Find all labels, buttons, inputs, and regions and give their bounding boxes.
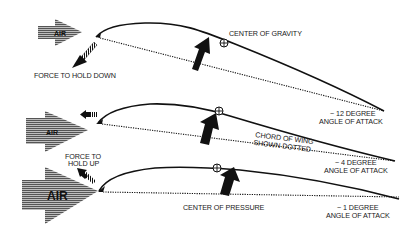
air-label: AIR xyxy=(54,30,66,37)
center-of-pressure-label: CENTER OF PRESSURE xyxy=(183,203,265,212)
force-hold-up-label-line2: HOLD UP xyxy=(68,159,100,168)
lift-arrow-icon xyxy=(200,113,219,145)
aoa-label-line2: ANGLE OF ATTACK xyxy=(319,117,383,126)
chord-line xyxy=(103,192,399,197)
lift-arrow-icon xyxy=(220,167,240,196)
air-label: AIR xyxy=(47,189,68,203)
force-up-arrow-icon xyxy=(77,168,96,184)
air-label: AIR xyxy=(46,129,58,136)
wing-diagram: AIR FORCE TO HOLD DOWN CENTER OF GRAVITY… xyxy=(0,0,419,240)
force-down-arrow-icon xyxy=(72,42,97,68)
center-of-gravity-icon xyxy=(215,107,223,115)
center-of-gravity-icon xyxy=(220,39,228,47)
aoa-label-line2: ANGLE OF ATTACK xyxy=(326,211,390,220)
aoa-label-line2: ANGLE OF ATTACK xyxy=(324,166,388,175)
force-hold-down-label: FORCE TO HOLD DOWN xyxy=(34,71,116,80)
center-of-gravity-label: CENTER OF GRAVITY xyxy=(229,29,302,38)
center-of-pressure-icon xyxy=(213,164,221,172)
force-left-arrow-icon xyxy=(80,110,98,119)
chord-line xyxy=(102,124,395,161)
chord-line xyxy=(100,38,384,111)
